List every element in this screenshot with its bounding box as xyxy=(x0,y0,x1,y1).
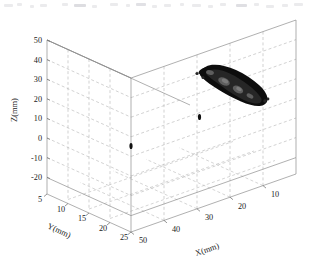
y-tick-label: 25 xyxy=(120,233,128,242)
x-tick-label: 30 xyxy=(205,213,213,222)
z-tick-label: 40 xyxy=(34,56,42,65)
z-tick-label: 30 xyxy=(34,75,42,84)
data-point-cluster xyxy=(195,65,269,106)
y-tick-label: 5 xyxy=(38,195,42,204)
y-axis-title: Y(mm) xyxy=(46,222,72,241)
y-tick-label: 10 xyxy=(57,205,65,214)
x-tick-label: 40 xyxy=(172,225,180,234)
z-tick-label: 50 xyxy=(34,36,42,45)
grid-back-left-wall xyxy=(47,50,131,219)
x-axis-title: X(mm) xyxy=(194,241,220,258)
x-tick-label: 20 xyxy=(238,202,246,211)
marker-point-a xyxy=(129,143,132,149)
z-axis-title: Z(mm) xyxy=(10,98,19,122)
y-tick-label: 15 xyxy=(78,214,86,223)
y-tick-label: 20 xyxy=(99,224,107,233)
x-tick-label: 10 xyxy=(271,190,279,199)
z-tick-label: 0 xyxy=(38,134,42,143)
plot-canvas: 50 40 30 20 10 0 -10 -20 Z(mm) 5 10 15 2… xyxy=(0,0,312,278)
axes-box-outline xyxy=(47,20,296,232)
x-tick-label: 50 xyxy=(139,236,147,245)
y-axis: 5 10 15 20 25 Y(mm) xyxy=(38,194,131,242)
x-axis: 50 40 30 20 10 X(mm) xyxy=(131,186,279,258)
z-tick-label: 10 xyxy=(34,114,42,123)
z-tick-label: 20 xyxy=(34,95,42,104)
z-tick-label: -20 xyxy=(31,173,42,182)
figure-3d-plot: 50 40 30 20 10 0 -10 -20 Z(mm) 5 10 15 2… xyxy=(0,0,312,278)
z-tick-label: -10 xyxy=(31,154,42,163)
data-marker-points xyxy=(129,114,201,149)
marker-point-b xyxy=(198,114,201,120)
z-axis: 50 40 30 20 10 0 -10 -20 Z(mm) xyxy=(10,36,50,182)
